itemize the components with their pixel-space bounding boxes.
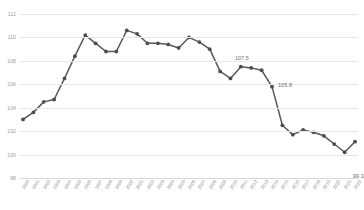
data-series (20, 14, 358, 178)
x-tick-label-1995: 1995 (73, 179, 82, 190)
x-axis: 1990199119921993199419951996199719981999… (20, 179, 358, 210)
data-point-1994 (63, 77, 67, 81)
x-tick-label-1999: 1999 (114, 179, 123, 190)
data-point-2016 (291, 133, 295, 137)
data-point-2003 (156, 41, 160, 45)
x-tick-label-2021: 2021 (342, 179, 351, 190)
y-tick-label-102: 102 (7, 128, 16, 134)
y-tick-label-108: 108 (7, 58, 16, 64)
gridline-110 (20, 37, 358, 38)
data-point-2004 (166, 43, 170, 47)
data-point-1990 (21, 118, 25, 122)
data-point-2008 (208, 47, 212, 51)
x-tick-label-2011: 2011 (239, 179, 248, 190)
gridline-112 (20, 14, 358, 15)
data-point-2002 (146, 41, 150, 45)
x-tick-label-1998: 1998 (104, 179, 113, 190)
data-label-105.8: 105.8 (278, 82, 292, 88)
data-point-2005 (177, 46, 181, 50)
y-tick-label-106: 106 (7, 81, 16, 87)
x-tick-label-1990: 1990 (21, 179, 30, 190)
x-tick-label-2017: 2017 (301, 179, 310, 190)
data-point-2019 (322, 134, 326, 138)
gridline-108 (20, 61, 358, 62)
data-label-99.3: 99.3 (353, 173, 364, 179)
x-tick-label-2002: 2002 (145, 179, 154, 190)
x-tick-label-1996: 1996 (83, 179, 92, 190)
data-point-2020 (332, 142, 336, 146)
data-point-1999 (114, 50, 118, 54)
x-tick-label-2003: 2003 (156, 179, 165, 190)
x-tick-label-2022: 2022 (353, 179, 362, 190)
series-line (23, 30, 355, 152)
x-tick-label-2004: 2004 (166, 179, 175, 190)
x-tick-label-2009: 2009 (218, 179, 227, 190)
x-tick-label-2005: 2005 (176, 179, 185, 190)
data-point-2009 (218, 70, 222, 74)
x-tick-label-2007: 2007 (197, 179, 206, 190)
data-point-2015 (280, 123, 284, 127)
data-point-2022 (353, 140, 357, 144)
x-tick-label-2014: 2014 (270, 179, 279, 190)
data-point-2021 (343, 150, 347, 154)
x-tick-label-2013: 2013 (259, 179, 268, 190)
x-tick-label-2008: 2008 (208, 179, 217, 190)
gridline-102 (20, 131, 358, 132)
y-tick-label-110: 110 (8, 34, 16, 40)
data-point-2010 (229, 77, 233, 81)
x-tick-label-2015: 2015 (280, 179, 289, 190)
x-tick-label-2010: 2010 (228, 179, 237, 190)
y-axis: 98100102104106108110112 (0, 14, 18, 178)
data-point-1992 (42, 100, 46, 104)
y-tick-label-98: 98 (10, 175, 16, 181)
x-tick-label-2000: 2000 (125, 179, 134, 190)
data-point-2013 (260, 68, 264, 72)
x-tick-label-1997: 1997 (93, 179, 102, 190)
gridline-104 (20, 108, 358, 109)
data-point-2014 (270, 85, 274, 89)
x-tick-label-2006: 2006 (187, 179, 196, 190)
y-tick-label-112: 112 (8, 11, 16, 17)
x-tick-label-1993: 1993 (52, 179, 61, 190)
x-tick-label-2019: 2019 (322, 179, 331, 190)
x-tick-label-2001: 2001 (135, 179, 144, 190)
data-point-2011 (239, 65, 243, 69)
data-point-1993 (52, 98, 56, 102)
data-point-1997 (94, 41, 98, 45)
data-label-107.5: 107.5 (235, 55, 249, 61)
y-tick-label-100: 100 (7, 152, 16, 158)
data-point-1991 (31, 111, 35, 115)
data-point-2001 (135, 32, 139, 36)
data-point-2007 (197, 40, 201, 44)
data-point-1995 (73, 54, 77, 58)
x-tick-label-2016: 2016 (291, 179, 300, 190)
x-tick-label-2012: 2012 (249, 179, 258, 190)
data-point-2000 (125, 29, 129, 33)
data-point-2012 (249, 66, 253, 70)
x-tick-label-1991: 1991 (31, 179, 40, 190)
data-point-1998 (104, 50, 108, 54)
x-tick-label-2020: 2020 (332, 179, 341, 190)
plot-area (20, 14, 358, 178)
gridline-100 (20, 155, 358, 156)
y-tick-label-104: 104 (7, 105, 16, 111)
gridline-106 (20, 84, 358, 85)
x-tick-label-1992: 1992 (42, 179, 51, 190)
x-tick-label-2018: 2018 (311, 179, 320, 190)
x-tick-label-1994: 1994 (62, 179, 71, 190)
